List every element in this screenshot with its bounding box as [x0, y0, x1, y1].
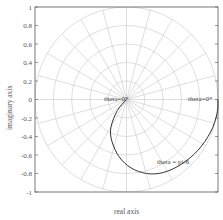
annotation-center: theta=0* — [104, 95, 129, 103]
x-axis-label: real axis — [114, 207, 139, 216]
y-tick-label: 0.4 — [23, 59, 32, 67]
grid-spoke — [103, 100, 127, 189]
annotation-right: theta=0* — [188, 95, 213, 103]
grid-spoke — [103, 10, 127, 99]
grid-spoke — [47, 53, 126, 99]
y-tick-label: -0.8 — [21, 170, 33, 178]
chart: 10.80.60.40.20-0.2-0.4-0.6-0.8-1 theta=0… — [0, 0, 223, 220]
y-tick-label: -0.6 — [21, 152, 33, 160]
grid-spoke — [81, 19, 127, 99]
y-tick-label: 0.2 — [23, 78, 32, 86]
grid-spoke — [127, 100, 206, 146]
y-tick-label: -0.4 — [21, 133, 33, 141]
y-tick-label: 0.8 — [23, 22, 32, 30]
grid-spoke — [127, 19, 173, 99]
grid-spoke — [127, 100, 173, 180]
grid-spoke — [127, 34, 192, 99]
grid-spoke — [127, 10, 151, 99]
grid-spoke — [81, 100, 127, 180]
grid-spoke — [127, 100, 151, 189]
y-tick-label: 0.6 — [23, 41, 32, 49]
grid-spoke — [62, 34, 127, 99]
grid-spoke — [127, 53, 206, 99]
grid-spoke — [62, 100, 127, 165]
y-tick-label: -0.2 — [21, 115, 33, 123]
y-tick-label: -1 — [26, 189, 32, 197]
grid-spoke — [127, 100, 192, 165]
y-axis-label: imaginary axis — [5, 86, 14, 130]
y-tick-label: 0 — [29, 96, 33, 104]
y-tick-label: 1 — [29, 4, 33, 12]
annotation-bottom: theta = pi/6 — [157, 158, 189, 166]
grid-spoke — [47, 100, 126, 146]
grid-spoke — [127, 100, 215, 124]
